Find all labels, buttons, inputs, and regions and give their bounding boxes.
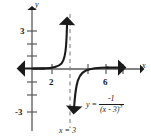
curve-left-branch	[33, 25, 67, 69]
graph-figure: y x 3 -3 2 6 x = 3 y = -1 (x - 3)3	[0, 0, 151, 140]
equation-denominator: (x - 3)3	[99, 105, 124, 114]
equation-lhs: y =	[86, 101, 97, 109]
y-axis-label: y	[35, 1, 39, 9]
y-tick-label-3: 3	[20, 27, 25, 36]
denominator-base: (x - 3)	[100, 105, 120, 114]
plot-canvas	[0, 0, 151, 140]
x-tick-label-6: 6	[103, 78, 108, 87]
denominator-exponent: 3	[120, 103, 123, 109]
x-axis-label: x	[142, 62, 146, 70]
y-tick-label-negative-3: -3	[15, 108, 23, 117]
equation-numerator: -1	[106, 95, 117, 104]
equation-fraction: -1 (x - 3)3	[99, 95, 124, 114]
asymptote-label: x = 3	[59, 127, 76, 135]
equation-label: y = -1 (x - 3)3	[86, 95, 124, 114]
x-tick-label-2: 2	[49, 78, 54, 87]
